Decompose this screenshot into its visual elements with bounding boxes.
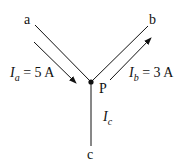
node-p-label: P [99, 82, 107, 96]
node-a-label: a [24, 13, 30, 27]
current-ia-label: Ia = 5 A [10, 66, 54, 83]
current-ib-label: Ib = 3 A [129, 66, 173, 83]
node-b-label: b [149, 13, 156, 27]
junction-dot [88, 79, 93, 84]
node-c-label: c [87, 148, 93, 162]
junction-diagram: a b c P Ia = 5 A Ib = 3 A Ic [0, 0, 183, 166]
current-ic-label: Ic [103, 110, 112, 127]
